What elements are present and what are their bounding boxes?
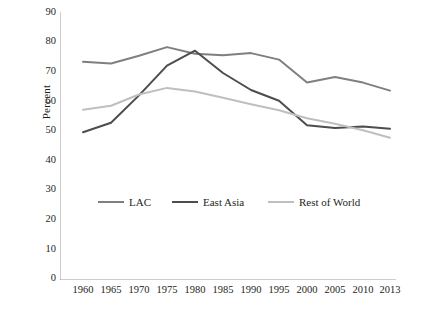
legend-item-rest-of-world: Rest of World: [268, 196, 360, 208]
plot-area: [60, 12, 396, 280]
legend-swatch-rest-of-world: [268, 201, 294, 203]
y-tick-80: 80: [32, 36, 56, 46]
legend-item-lac: LAC: [98, 196, 151, 208]
y-tick-50: 50: [32, 125, 56, 135]
legend-swatch-east-asia: [172, 201, 198, 203]
legend-label-lac: LAC: [129, 196, 151, 208]
y-tick-60: 60: [32, 96, 56, 106]
y-axis-tick-labels: 90 80 70 60 50 40 30 20 10 0: [28, 12, 56, 280]
chart-container: Percent 90 80 70 60 50 40 30 20 10 0 196…: [0, 0, 421, 323]
legend-label-rest-of-world: Rest of World: [299, 196, 360, 208]
chart-legend: LAC East Asia Rest of World: [60, 196, 396, 214]
series-line-rest-of-world: [83, 88, 390, 138]
x-tick-2013: 2013: [373, 284, 407, 296]
y-tick-10: 10: [32, 244, 56, 254]
y-tick-70: 70: [32, 66, 56, 76]
series-layer: [83, 47, 390, 138]
y-tick-30: 30: [32, 184, 56, 194]
legend-label-east-asia: East Asia: [203, 196, 244, 208]
legend-swatch-lac: [98, 201, 124, 203]
x-axis-tick-labels: 1960 1965 1970 1975 1980 1985 1990 1995 …: [60, 284, 396, 300]
series-line-lac: [83, 47, 390, 91]
y-tick-20: 20: [32, 214, 56, 224]
y-tick-90: 90: [32, 7, 56, 17]
y-tick-40: 40: [32, 155, 56, 165]
chart-svg: [60, 12, 396, 280]
series-line-east-asia: [83, 51, 390, 133]
legend-item-east-asia: East Asia: [172, 196, 244, 208]
y-tick-0: 0: [32, 273, 56, 283]
